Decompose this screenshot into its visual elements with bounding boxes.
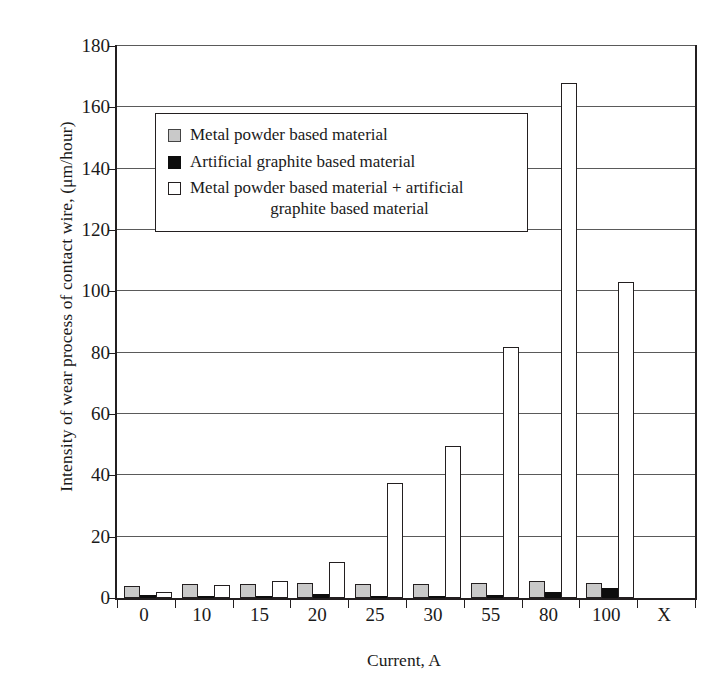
gridline [117, 536, 695, 537]
y-tick-label: 60 [91, 403, 110, 425]
gridline [117, 106, 695, 107]
bar [371, 596, 387, 599]
legend-item: Metal powder based material + artificial… [168, 178, 515, 219]
x-tick-mark [233, 598, 234, 608]
x-tick-label: 15 [250, 604, 269, 626]
x-tick-label: 10 [192, 604, 211, 626]
y-tick-label: 20 [91, 526, 110, 548]
legend-label: Metal powder based material [190, 125, 515, 146]
x-tick-mark [637, 598, 638, 608]
y-tick-label: 180 [82, 35, 111, 57]
gridline [117, 413, 695, 414]
x-tick-mark [406, 598, 407, 608]
x-tick-mark [290, 598, 291, 608]
gridline [117, 290, 695, 291]
x-tick-label: 0 [139, 604, 149, 626]
bar [124, 586, 140, 598]
y-tick-label: 160 [82, 96, 111, 118]
y-tick-label: 40 [91, 464, 110, 486]
bar [445, 446, 461, 598]
gridline [117, 45, 695, 46]
bar [545, 592, 561, 598]
bar [355, 584, 371, 598]
x-tick-label: 25 [366, 604, 385, 626]
bar [297, 583, 313, 598]
legend-label-multiline: Metal powder based material + artificial… [190, 178, 515, 219]
bar [561, 83, 577, 598]
y-tick-label: 140 [82, 158, 111, 180]
legend-label-line2: graphite based material [190, 199, 515, 220]
x-tick-mark [464, 598, 465, 608]
bar [329, 562, 345, 598]
legend-swatch-white-square-icon [168, 182, 181, 195]
x-tick-mark [175, 598, 176, 608]
x-tick-mark [579, 598, 580, 608]
legend-label-line1: Metal powder based material + artificial [190, 178, 463, 197]
bar [140, 595, 156, 598]
x-tick-mark [117, 598, 118, 608]
bar [198, 596, 214, 599]
y-tick-label: 120 [82, 219, 111, 241]
x-tick-label: 100 [592, 604, 621, 626]
bar-chart-figure: Intensity of wear process of contact wir… [0, 0, 724, 697]
y-tick-label: 80 [91, 342, 110, 364]
x-tick-mark [695, 598, 696, 608]
gridline [117, 474, 695, 475]
legend-item: Artificial graphite based material [168, 152, 515, 173]
y-axis-title: Intensity of wear process of contact wir… [56, 27, 77, 587]
legend-item: Metal powder based material [168, 125, 515, 146]
legend-swatch-gray-square-icon [168, 129, 181, 142]
bar [529, 581, 545, 598]
bar [487, 595, 503, 598]
x-tick-label: 30 [423, 604, 442, 626]
x-tick-label: 20 [308, 604, 327, 626]
bar [503, 347, 519, 598]
bar [602, 588, 618, 598]
bar [156, 592, 172, 598]
bar [618, 282, 634, 598]
x-axis-title: Current, A [115, 650, 693, 671]
x-tick-mark [522, 598, 523, 608]
bar [214, 585, 230, 598]
bar [182, 584, 198, 598]
bar [272, 581, 288, 598]
bar [256, 596, 272, 599]
x-tick-mark [348, 598, 349, 608]
bar [387, 483, 403, 598]
y-tick-label: 100 [82, 280, 111, 302]
chart-legend: Metal powder based material Artificial g… [155, 113, 528, 232]
bar [471, 583, 487, 598]
gridline [117, 352, 695, 353]
x-tick-label: X [657, 604, 671, 626]
legend-swatch-black-square-icon [168, 156, 181, 169]
legend-label: Artificial graphite based material [190, 152, 515, 173]
bar [240, 584, 256, 598]
bar [313, 594, 329, 598]
bar [429, 596, 445, 599]
x-tick-label: 80 [539, 604, 558, 626]
x-tick-label: 55 [481, 604, 500, 626]
y-tick-label: 0 [101, 587, 111, 609]
bar [586, 583, 602, 598]
bar [413, 584, 429, 598]
